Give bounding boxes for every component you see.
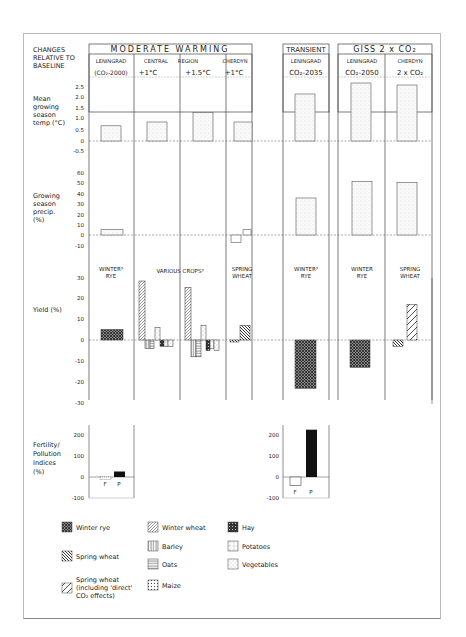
yield-bar-vegetables xyxy=(214,340,219,351)
svg-text:-100: -100 xyxy=(72,495,85,501)
svg-text:season: season xyxy=(33,111,56,119)
svg-text:40: 40 xyxy=(77,191,84,197)
group-moderate-warming: MODERATE WARMING xyxy=(111,45,230,54)
svg-text:Hay: Hay xyxy=(242,524,255,532)
svg-text:P: P xyxy=(309,489,313,495)
yield-bar-hay xyxy=(206,340,210,351)
svg-text:-0.5: -0.5 xyxy=(73,148,84,154)
fert-bar-p xyxy=(114,472,125,478)
svg-text:200: 200 xyxy=(74,432,85,438)
svg-text:temp (°C): temp (°C) xyxy=(33,119,65,127)
yield-bar-barley xyxy=(145,340,150,348)
precip-bar xyxy=(352,182,372,236)
svg-text:Fertility/: Fertility/ xyxy=(33,441,60,449)
yield-bar-spring-wheat xyxy=(240,325,250,340)
svg-text:2.5: 2.5 xyxy=(75,84,84,90)
yield-bar-oats xyxy=(196,340,201,357)
svg-text:20: 20 xyxy=(77,295,84,301)
svg-text:CO₂-2035: CO₂-2035 xyxy=(289,69,323,77)
yield-bar-winter-rye xyxy=(350,340,370,367)
header: CHANGES RELATIVE TO BASELINE MODERATE WA… xyxy=(33,44,432,112)
svg-text:Barley: Barley xyxy=(162,543,183,551)
svg-text:BASELINE: BASELINE xyxy=(33,62,65,70)
svg-text:WHEAT: WHEAT xyxy=(232,273,252,279)
svg-text:100: 100 xyxy=(269,453,280,459)
group-transient: TRANSIENT xyxy=(285,46,326,54)
svg-text:RYE: RYE xyxy=(301,273,312,279)
svg-text:RYE: RYE xyxy=(106,273,117,279)
fert-bar-f xyxy=(290,477,301,485)
svg-text:VARIOUS CROPS³: VARIOUS CROPS³ xyxy=(156,268,203,274)
svg-text:CO₂ effects): CO₂ effects) xyxy=(76,592,115,600)
legend-swatch-oats xyxy=(148,559,158,569)
yield-bar-winter-wheat xyxy=(185,288,191,341)
svg-text:-100: -100 xyxy=(267,495,280,501)
legend: Winter rye Winter wheat Hay Barley Potat… xyxy=(62,522,279,600)
svg-text:60: 60 xyxy=(77,170,84,176)
svg-text:CENTRAL: CENTRAL xyxy=(144,58,168,64)
precip-bar xyxy=(101,230,123,235)
svg-text:WINTER: WINTER xyxy=(351,266,373,272)
crop-labels: WINTER³ RYE VARIOUS CROPS³ SPRING WHEAT … xyxy=(99,266,421,279)
legend-swatch-barley xyxy=(148,541,158,551)
svg-text:2.0: 2.0 xyxy=(75,94,84,100)
yield-panel: Yield (%) 30 20 10 0 -10 -20 -30 xyxy=(32,275,432,406)
svg-text:precip.: precip. xyxy=(33,208,55,216)
yield-bar-hay-light xyxy=(201,325,206,340)
svg-text:0: 0 xyxy=(81,232,85,238)
svg-text:SPRING: SPRING xyxy=(232,266,253,272)
svg-text:F: F xyxy=(293,489,296,495)
svg-text:Yield (%): Yield (%) xyxy=(32,306,62,314)
precip-bar xyxy=(397,183,417,236)
svg-text:WINTER³: WINTER³ xyxy=(99,266,123,272)
svg-text:0.5: 0.5 xyxy=(75,127,84,133)
temp-bar xyxy=(234,122,252,141)
svg-text:(%): (%) xyxy=(33,468,44,476)
svg-text:WHEAT: WHEAT xyxy=(400,273,420,279)
svg-text:Spring wheat: Spring wheat xyxy=(76,553,119,561)
svg-text:+1°C: +1°C xyxy=(225,69,244,77)
svg-text:Potatoes: Potatoes xyxy=(242,543,271,551)
fert-bar-p xyxy=(306,430,317,477)
yield-bar-winter-rye xyxy=(101,330,123,341)
yield-bar-spring-wheat xyxy=(230,340,239,342)
svg-text:50: 50 xyxy=(77,180,84,186)
svg-text:30: 30 xyxy=(77,201,84,207)
yield-bar-hay-light xyxy=(155,327,160,340)
svg-text:1.0: 1.0 xyxy=(75,115,84,121)
svg-text:(%): (%) xyxy=(33,216,44,224)
yield-bar-oats xyxy=(150,340,154,348)
svg-text:+1°C: +1°C xyxy=(139,69,158,77)
yield-bar-barley xyxy=(191,340,196,357)
svg-text:Winter rye: Winter rye xyxy=(76,524,110,532)
svg-text:SPRING: SPRING xyxy=(400,266,421,272)
svg-text:-10: -10 xyxy=(75,243,84,249)
temp-bar xyxy=(295,94,315,141)
yield-bar-spring-wheat xyxy=(393,340,403,346)
svg-text:Mean: Mean xyxy=(33,95,51,103)
svg-text:-30: -30 xyxy=(75,400,84,406)
legend-swatch-potatoes xyxy=(228,541,238,551)
svg-text:WINTER³: WINTER³ xyxy=(294,266,318,272)
legend-swatch-spring-wheat xyxy=(62,551,72,561)
svg-text:Growing: Growing xyxy=(33,192,60,200)
svg-text:Indices: Indices xyxy=(33,459,57,467)
svg-text:Winter wheat: Winter wheat xyxy=(162,524,206,532)
column-dividers xyxy=(89,54,432,400)
fert-bar-f xyxy=(100,477,111,480)
precip-panel: Growing season precip. (%) 60 50 40 30 2… xyxy=(33,170,432,249)
svg-text:RELATIVE TO: RELATIVE TO xyxy=(33,54,75,62)
svg-text:P: P xyxy=(117,481,121,487)
svg-text:0: 0 xyxy=(81,337,85,343)
svg-text:Oats: Oats xyxy=(162,561,178,569)
temp-bar xyxy=(193,113,213,142)
row-label-changes: CHANGES xyxy=(33,46,65,54)
svg-text:Maize: Maize xyxy=(162,582,181,590)
yield-bar-potatoes xyxy=(164,340,168,346)
svg-text:10: 10 xyxy=(77,316,84,322)
svg-text:20: 20 xyxy=(77,212,84,218)
svg-text:Vegetables: Vegetables xyxy=(242,561,279,569)
svg-text:0: 0 xyxy=(276,474,280,480)
group-giss: GISS 2 x CO₂ xyxy=(353,45,416,54)
svg-text:CHERDYN: CHERDYN xyxy=(397,58,422,64)
